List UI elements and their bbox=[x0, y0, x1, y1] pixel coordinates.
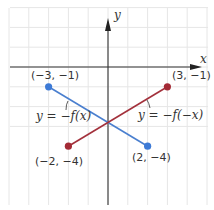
label-point-neg3-neg1: (−3, −1) bbox=[31, 69, 79, 82]
x-axis-label: x bbox=[200, 52, 207, 66]
point-3-neg1 bbox=[164, 83, 171, 90]
point-2-neg4 bbox=[144, 143, 151, 150]
label-point-3-neg1: (3, −1) bbox=[172, 69, 211, 82]
y-axis-arrow-icon bbox=[105, 18, 111, 31]
equation-label-neg-f-neg-x: y = −f(−x) bbox=[137, 108, 203, 122]
label-point-neg2-neg4: (−2, −4) bbox=[35, 155, 83, 168]
coordinate-plane: x y (−3, −1) (3, −1) (−2, −4) (2, −4) y … bbox=[0, 0, 214, 210]
y-axis-label: y bbox=[113, 8, 121, 22]
point-neg3-neg1 bbox=[45, 83, 52, 90]
point-neg2-neg4 bbox=[65, 143, 72, 150]
equation-label-neg-f-x: y = −f(x) bbox=[35, 109, 91, 123]
label-point-2-neg4: (2, −4) bbox=[132, 151, 171, 164]
